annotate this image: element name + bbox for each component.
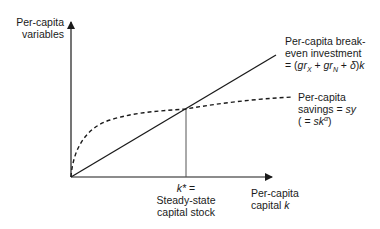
y-axis-label: Per-capita variables [6, 16, 64, 40]
x-axis-label-line1: Per-capita [251, 187, 299, 199]
formula-open: = ( [285, 59, 298, 71]
formula-plus: + [312, 59, 324, 71]
savings-sy: sy [346, 103, 357, 115]
formula-gr-n: gr [324, 59, 333, 71]
savings-label-line3: ( = skα) [298, 115, 356, 127]
savings-label-line1: Per-capita [298, 91, 356, 103]
savings-paren-close: ) [328, 115, 332, 127]
x-axis-label-k: k [284, 199, 289, 211]
savings-label: Per-capita savings = sy ( = skα) [298, 91, 356, 127]
formula-gr: gr [298, 59, 307, 71]
kstar-eq: = [186, 182, 195, 194]
breakeven-label: Per-capita break- even investment = (grX… [285, 35, 366, 71]
x-axis-label-capital: capital [251, 199, 284, 211]
kstar-label-line2: Steady-state [136, 194, 236, 206]
kstar-var: k* [177, 182, 186, 194]
y-axis-label-line1: Per-capita [6, 16, 64, 28]
breakeven-formula: = (grX + grN + δ)k [285, 59, 366, 71]
x-axis-label: Per-capita capital k [251, 187, 299, 211]
y-axis-label-line2: variables [6, 28, 64, 40]
kstar-label-line3: capital stock [136, 206, 236, 218]
kstar-label-line1: k* = [136, 182, 236, 194]
savings-sk: sk [313, 115, 324, 127]
x-axis-label-line2: capital k [251, 199, 299, 211]
kstar-label: k* = Steady-state capital stock [136, 182, 236, 218]
savings-curve [71, 97, 293, 177]
breakeven-investment-line [71, 55, 276, 177]
breakeven-label-line1: Per-capita break- [285, 35, 366, 47]
formula-plus-2: + [338, 59, 350, 71]
breakeven-label-line2: even investment [285, 47, 366, 59]
formula-k: k [359, 59, 364, 71]
savings-label-line2: savings = sy [298, 103, 356, 115]
savings-eq: savings = [298, 103, 346, 115]
savings-paren-open: ( = [298, 115, 313, 127]
